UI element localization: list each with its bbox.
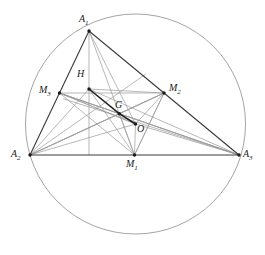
diagram-canvas xyxy=(0,0,265,255)
segment-H-M2 xyxy=(89,89,164,93)
label-M2: M2 xyxy=(169,83,181,96)
segment-H-A2 xyxy=(30,89,89,155)
segment-O-M1 xyxy=(135,124,136,155)
point-G xyxy=(118,112,121,115)
point-A3 xyxy=(237,153,240,156)
radius-O-A2 xyxy=(30,124,136,155)
radius-O-A3 xyxy=(136,124,240,155)
label-H: H xyxy=(77,69,84,79)
point-M3 xyxy=(58,91,61,94)
segment-O-M2 xyxy=(136,93,165,124)
auxiliary-lines xyxy=(30,31,239,155)
geometry-figure: A1 A2 A3 M1 M2 M3 H G O xyxy=(0,0,265,255)
segment-M3-O xyxy=(60,93,136,124)
point-M1 xyxy=(133,153,136,156)
label-A3: A3 xyxy=(243,149,253,162)
label-M3: M3 xyxy=(39,85,51,98)
label-A1: A1 xyxy=(79,14,89,27)
radius-O-A1 xyxy=(89,31,136,124)
label-O: O xyxy=(137,124,144,134)
point-H xyxy=(87,87,90,90)
point-A1 xyxy=(87,29,90,32)
label-G: G xyxy=(115,100,122,110)
point-M2 xyxy=(162,91,165,94)
label-M1: M1 xyxy=(126,159,138,172)
point-A2 xyxy=(28,153,31,156)
label-A2: A2 xyxy=(11,149,21,162)
